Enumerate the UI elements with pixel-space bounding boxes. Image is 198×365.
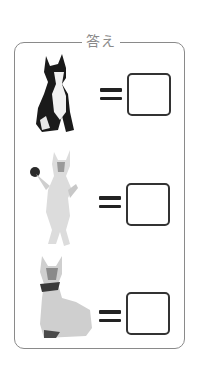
equals-sign bbox=[100, 88, 122, 100]
equals-sign bbox=[99, 310, 121, 322]
cat-sitting-siamese-collar-icon bbox=[36, 254, 94, 338]
answer-box-2[interactable] bbox=[126, 183, 170, 226]
equals-sign bbox=[99, 196, 121, 208]
cat-standing-dancing-icon bbox=[28, 146, 86, 250]
cat-sitting-black-white-icon bbox=[32, 50, 84, 134]
answer-box-1[interactable] bbox=[127, 73, 171, 116]
panel-title: 答え bbox=[82, 32, 120, 50]
answer-box-3[interactable] bbox=[126, 292, 170, 335]
